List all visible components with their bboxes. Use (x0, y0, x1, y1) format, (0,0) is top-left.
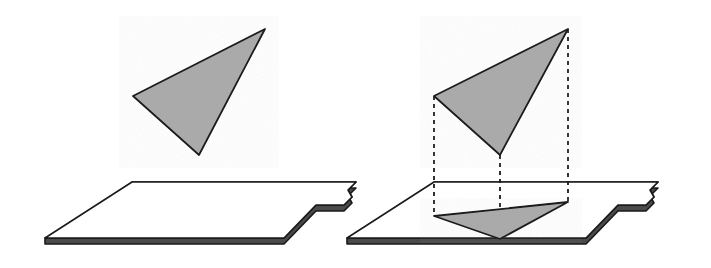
figure-root: Orthogonal projection of a triangle onto… (0, 0, 711, 268)
projection-diagram: Orthogonal projection of a triangle onto… (0, 0, 711, 268)
